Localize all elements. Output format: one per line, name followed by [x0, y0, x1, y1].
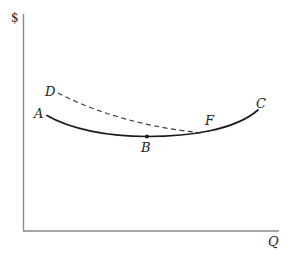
figure-canvas: $ Q D A B F C — [0, 0, 292, 256]
label-D: D — [44, 84, 56, 99]
curve-dashed-DF — [58, 93, 201, 133]
label-A: A — [33, 106, 43, 121]
y-axis-label: $ — [11, 11, 19, 25]
label-C: C — [256, 96, 266, 111]
label-B: B — [140, 140, 151, 155]
econ-curve-diagram: $ Q D A B F C — [0, 0, 292, 256]
label-F: F — [204, 113, 215, 128]
curve-solid-ABC — [47, 110, 258, 137]
x-axis-label: Q — [268, 234, 279, 249]
point-b-dot — [145, 135, 149, 139]
